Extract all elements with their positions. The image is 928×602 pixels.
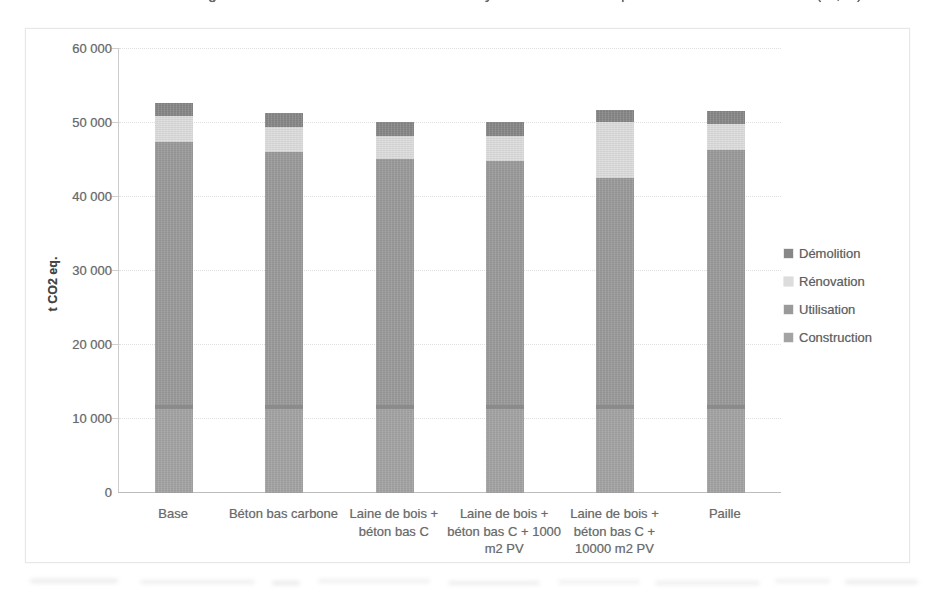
scan-artifact [775, 579, 830, 583]
bar-segment-construction [707, 405, 745, 493]
legend-item: Utilisation [784, 302, 872, 316]
x-category-label: Paille [668, 505, 782, 523]
y-tick-label: 10 000 [20, 411, 112, 426]
x-category-label: Laine de bois + béton bas C + 1000 m2 PV [447, 505, 561, 558]
bar-segment-utilisation [155, 142, 193, 405]
bar-segment-demolition [707, 111, 745, 124]
legend-swatch-icon [784, 333, 793, 342]
y-axis-tick [112, 270, 119, 271]
legend-item: Rénovation [784, 274, 872, 288]
y-axis-title: t CO2 eq. [46, 249, 60, 319]
bar-4 [486, 122, 524, 493]
bar-segment-demolition [265, 113, 303, 127]
category-slot [450, 49, 560, 493]
bar-segment-construction [265, 405, 303, 493]
cropped-chart-title: gyp(,) [0, 0, 928, 7]
cropped-title-fragment: g [208, 0, 217, 3]
bar-segment-renovation [376, 136, 414, 160]
bar-3 [376, 122, 414, 493]
category-slot [560, 49, 670, 493]
scan-artifact [448, 581, 540, 585]
bar-6 [707, 111, 745, 493]
scan-artifact [558, 580, 640, 584]
cropped-title-fragment: p [621, 0, 630, 3]
bar-segment-renovation [596, 122, 634, 178]
bar-segment-utilisation [707, 150, 745, 405]
bar-segment-construction [596, 405, 634, 493]
scan-artifact [845, 580, 918, 584]
bar-5 [596, 110, 634, 493]
scan-artifact [30, 579, 118, 583]
bar-1 [155, 103, 193, 493]
legend-swatch-icon [784, 305, 793, 314]
bar-segment-utilisation [265, 152, 303, 405]
bar-segment-demolition [596, 110, 634, 122]
category-slot [229, 49, 339, 493]
scan-artifact [272, 581, 300, 585]
bar-segment-demolition [376, 122, 414, 135]
y-tick-label: 30 000 [20, 263, 112, 278]
legend: DémolitionRénovationUtilisationConstruct… [784, 246, 872, 358]
y-axis-tick [112, 418, 119, 419]
bar-segment-construction [486, 405, 524, 493]
y-tick-label: 50 000 [20, 115, 112, 130]
y-axis-tick [112, 344, 119, 345]
scan-artifact [318, 579, 430, 583]
x-category-label: Base [116, 505, 230, 523]
plot-area [118, 49, 781, 493]
cropped-title-fragment: , [836, 0, 840, 3]
legend-swatch-icon [784, 277, 793, 286]
y-tick-label: 20 000 [20, 337, 112, 352]
bar-segment-construction [155, 405, 193, 493]
legend-label: Démolition [799, 246, 860, 261]
x-category-label: Laine de bois + béton bas C + 10000 m2 P… [558, 505, 672, 558]
scan-artifact [655, 581, 760, 585]
bar-segment-construction [376, 405, 414, 493]
chart-figure: gyp(,) t CO2 eq. DémolitionRénovationUti… [0, 0, 928, 602]
bar-2 [265, 113, 303, 493]
bar-segment-demolition [155, 103, 193, 116]
bar-segment-utilisation [376, 159, 414, 405]
legend-label: Rénovation [799, 274, 865, 289]
x-category-label: Béton bas carbone [227, 505, 341, 523]
bar-segment-renovation [265, 127, 303, 152]
cropped-title-fragment: ) [857, 0, 862, 3]
bar-segment-utilisation [596, 178, 634, 405]
cropped-title-fragment: y [485, 0, 493, 3]
cropped-title-fragment: ( [816, 0, 821, 3]
y-axis-tick [112, 48, 119, 49]
category-slot [119, 49, 229, 493]
scan-artifact [140, 580, 255, 584]
y-tick-label: 60 000 [20, 41, 112, 56]
legend-label: Construction [799, 330, 872, 345]
bar-segment-utilisation [486, 161, 524, 405]
y-tick-label: 40 000 [20, 189, 112, 204]
bar-segment-renovation [486, 136, 524, 161]
legend-swatch-icon [784, 249, 793, 258]
legend-item: Construction [784, 330, 872, 344]
category-slot [340, 49, 450, 493]
bar-segment-demolition [486, 122, 524, 135]
legend-item: Démolition [784, 246, 872, 260]
bar-segment-renovation [155, 116, 193, 142]
category-slot [671, 49, 781, 493]
y-tick-label: 0 [20, 485, 112, 500]
legend-label: Utilisation [799, 302, 855, 317]
bar-segment-renovation [707, 124, 745, 151]
y-axis-tick [112, 196, 119, 197]
y-axis-tick [112, 122, 119, 123]
x-category-label: Laine de bois + béton bas C [337, 505, 451, 540]
